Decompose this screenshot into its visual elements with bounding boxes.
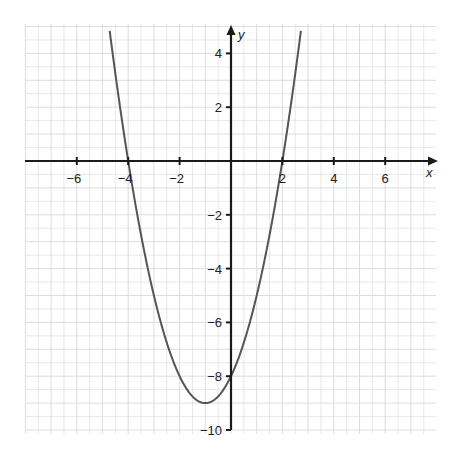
y-tick-label: −2 bbox=[207, 208, 222, 223]
x-tick-label: −6 bbox=[66, 171, 81, 186]
x-tick-label: 4 bbox=[330, 171, 337, 186]
x-tick-label: −4 bbox=[118, 171, 133, 186]
axes: x y bbox=[25, 25, 438, 430]
x-tick-label: 6 bbox=[382, 171, 389, 186]
y-tick-label: −6 bbox=[207, 315, 222, 330]
x-tick-label: −2 bbox=[169, 171, 184, 186]
x-tick-label: 2 bbox=[279, 171, 286, 186]
y-tick-label: 4 bbox=[215, 46, 222, 61]
x-axis-label: x bbox=[425, 165, 433, 180]
y-tick-label: −4 bbox=[207, 262, 222, 277]
tick-marks: −6−4−224642−2−4−6−8−10 bbox=[66, 46, 388, 438]
y-tick-label: 2 bbox=[215, 100, 222, 115]
y-tick-label: −10 bbox=[200, 423, 222, 438]
parabola-graph: x y −6−4−224642−2−4−6−8−10 bbox=[0, 0, 458, 462]
y-tick-label: −8 bbox=[207, 369, 222, 384]
